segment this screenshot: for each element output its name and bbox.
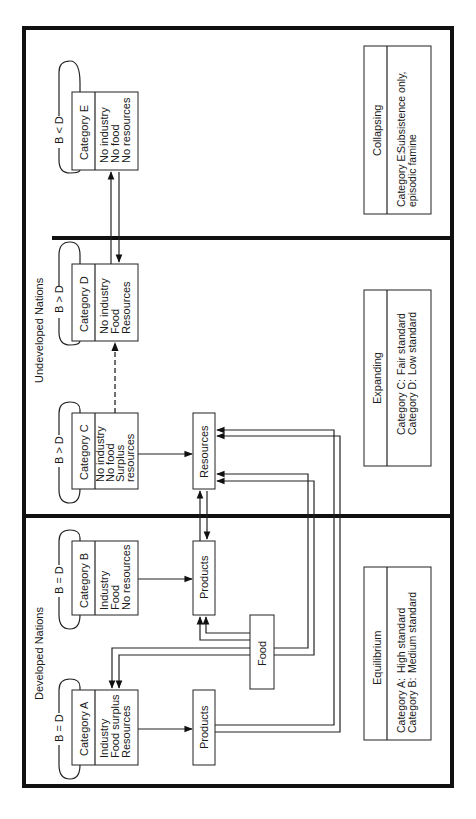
category-d-title: Category D [78,276,90,332]
flow-arrows [111,172,340,732]
svg-text:Equilibrium: Equilibrium [371,631,383,685]
category-b-title: Category B [78,553,90,608]
category-e-title: Category E [78,105,90,160]
legend-expanding: Expanding Category C: Fair standard Cate… [364,290,431,466]
svg-text:Products: Products [198,705,210,749]
svg-text:Expanding: Expanding [371,352,383,404]
balance-c: B > D [53,436,65,464]
svg-text:Products: Products [198,555,210,599]
svg-text:Medium standard: Medium standard [406,592,418,673]
undeveloped-nations-label: Undeveloped Nations [33,277,45,383]
legend-equilibrium: Equilibrium Category A: High standard Ca… [364,567,431,740]
balance-d: B > D [53,285,65,313]
legend-collapsing: Collapsing Category E: Subsistence only,… [364,46,431,214]
svg-text:No resources: No resources [120,544,132,610]
products-b-node: Products [193,541,215,615]
category-d-node: B > D Category D No industry Food Resour… [53,242,138,345]
developed-nations-label: Developed Nations [33,607,45,700]
category-a-node: B = D Category A Industry Food surplus R… [53,679,138,779]
balance-a: B = D [53,714,65,742]
resources-node: Resources [193,413,215,489]
svg-text:episodic famine: episodic famine [406,134,418,207]
category-b-node: B = D Category B Industry Food No resour… [53,530,138,629]
svg-text:Low standard: Low standard [406,312,418,375]
svg-text:Collapsing: Collapsing [371,105,383,156]
balance-b: B = D [53,566,65,594]
category-c-node: B > D Category C No industry No food Sur… [53,402,138,503]
svg-text:Resources: Resources [120,281,132,334]
svg-text:resources: resources [124,433,136,482]
food-node: Food [250,615,274,689]
category-e-node: B < D Category E No industry No food No … [53,61,138,173]
svg-text:No resources: No resources [120,97,132,163]
svg-text:Category B:: Category B: [406,678,418,733]
svg-text:Food: Food [256,641,268,666]
products-a-node: Products [193,690,215,765]
nations-diagram: Undeveloped Nations Developed Nations B … [0,0,476,819]
category-c-title: Category C [78,424,90,480]
balance-e: B < D [53,116,65,144]
category-a-title: Category A [78,701,90,756]
svg-text:Resources: Resources [120,705,132,758]
svg-text:Resources: Resources [198,425,210,478]
svg-text:Category D:: Category D: [406,379,418,435]
